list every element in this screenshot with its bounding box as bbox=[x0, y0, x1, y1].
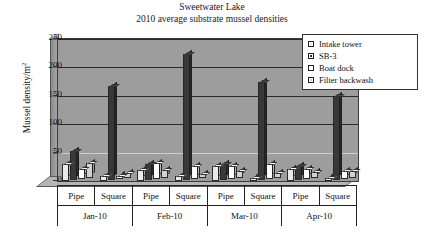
bar-side-face bbox=[189, 50, 192, 176]
bar-top-face bbox=[267, 162, 278, 165]
bar bbox=[100, 176, 107, 181]
bar bbox=[250, 178, 257, 181]
bar-group bbox=[208, 39, 246, 181]
bar bbox=[325, 178, 332, 181]
y-tick-label: 0 bbox=[34, 174, 62, 184]
bar-group bbox=[58, 39, 96, 181]
chart-title: Sweetwater Lake bbox=[0, 2, 424, 14]
bar bbox=[274, 173, 281, 178]
bar bbox=[62, 164, 69, 181]
legend: Intake tower SB-3 Boat dock Filter backw… bbox=[302, 34, 418, 90]
legend-item-intake-tower: Intake tower bbox=[308, 38, 413, 50]
bar-top-face bbox=[109, 84, 120, 87]
legend-label: Filter backwash bbox=[319, 75, 373, 85]
square-gray-icon bbox=[308, 77, 314, 83]
bar-group bbox=[246, 39, 284, 181]
bar bbox=[175, 176, 182, 181]
legend-label: Boat dock bbox=[319, 63, 354, 73]
bar bbox=[333, 96, 340, 180]
x-tick-label-month: Mar-10 bbox=[208, 206, 283, 226]
bar bbox=[183, 54, 190, 180]
bar-top-face bbox=[334, 94, 345, 97]
bar-side-face bbox=[114, 82, 117, 176]
bar-side-face bbox=[339, 92, 342, 176]
y-tick-label: 250 bbox=[34, 32, 62, 42]
bar bbox=[86, 163, 93, 178]
bar bbox=[70, 151, 77, 181]
bar-group bbox=[133, 39, 171, 181]
square-light-icon bbox=[308, 41, 314, 47]
y-axis-title: Mussel density/m2 bbox=[20, 28, 32, 168]
bar bbox=[108, 86, 115, 180]
bar-group bbox=[171, 39, 209, 181]
bar bbox=[137, 170, 144, 181]
x-axis: PipeSquarePipeSquarePipeSquarePipeSquare… bbox=[57, 185, 357, 231]
bar bbox=[78, 169, 85, 179]
bar bbox=[145, 164, 152, 180]
chart-subtitle: 2010 average substrate mussel densities bbox=[0, 14, 424, 26]
x-tick-label-substrate: Pipe bbox=[57, 186, 95, 206]
bar-top-face bbox=[229, 164, 240, 167]
bar bbox=[228, 166, 235, 180]
bar-side-face bbox=[264, 78, 267, 176]
square-white-icon bbox=[308, 65, 314, 71]
y-tick-label: 200 bbox=[34, 60, 62, 70]
bar-top-face bbox=[304, 167, 315, 170]
legend-item-sb-3: SB-3 bbox=[308, 50, 413, 62]
chart-title-block: Sweetwater Lake 2010 average substrate m… bbox=[0, 2, 424, 26]
legend-label: Intake tower bbox=[319, 39, 362, 49]
y-axis-title-exponent: 2 bbox=[20, 63, 27, 66]
x-tick-label-substrate: Pipe bbox=[133, 186, 170, 206]
bar bbox=[311, 172, 318, 179]
bar bbox=[258, 82, 265, 180]
bar bbox=[287, 169, 294, 181]
bar-group bbox=[96, 39, 134, 181]
bar-top-face bbox=[184, 52, 195, 55]
legend-item-boat-dock: Boat dock bbox=[308, 62, 413, 74]
bar-top-face bbox=[71, 149, 82, 152]
x-axis-substrate-row: PipeSquarePipeSquarePipeSquarePipeSquare bbox=[57, 185, 357, 206]
bar bbox=[116, 176, 123, 179]
bar bbox=[161, 170, 168, 179]
x-tick-label-substrate: Square bbox=[320, 186, 357, 206]
bar bbox=[153, 163, 160, 179]
bar bbox=[212, 166, 219, 181]
bar bbox=[236, 171, 243, 178]
chart-figure: Sweetwater Lake 2010 average substrate m… bbox=[0, 0, 424, 234]
legend-item-filter-backwash: Filter backwash bbox=[308, 74, 413, 86]
x-tick-label-substrate: Square bbox=[245, 186, 282, 206]
bar-top-face bbox=[192, 164, 203, 167]
y-tick-label: 50 bbox=[34, 146, 62, 156]
bar bbox=[199, 174, 206, 178]
y-tick-label: 100 bbox=[34, 117, 62, 127]
y-tick-mark bbox=[53, 95, 58, 96]
legend-label: SB-3 bbox=[319, 51, 336, 61]
y-tick-mark bbox=[53, 123, 58, 124]
y-tick-mark bbox=[53, 152, 58, 153]
bar-top-face bbox=[259, 80, 270, 83]
square-dark-icon bbox=[308, 53, 314, 59]
y-tick-mark bbox=[53, 180, 58, 181]
x-tick-label-month: Jan-10 bbox=[57, 206, 133, 226]
x-tick-label-substrate: Pipe bbox=[208, 186, 245, 206]
x-tick-label-substrate: Square bbox=[95, 186, 132, 206]
y-tick-label: 150 bbox=[34, 89, 62, 99]
x-tick-label-month: Feb-10 bbox=[133, 206, 208, 226]
x-tick-label-month: Apr-10 bbox=[282, 206, 357, 226]
bar bbox=[303, 169, 310, 179]
x-tick-label-substrate: Square bbox=[170, 186, 207, 206]
y-tick-mark bbox=[53, 66, 58, 67]
x-axis-month-row: Jan-10Feb-10Mar-10Apr-10 bbox=[57, 205, 357, 226]
x-tick-label-substrate: Pipe bbox=[282, 186, 319, 206]
y-tick-mark bbox=[53, 38, 58, 39]
y-axis-title-text: Mussel density/m bbox=[22, 66, 32, 133]
